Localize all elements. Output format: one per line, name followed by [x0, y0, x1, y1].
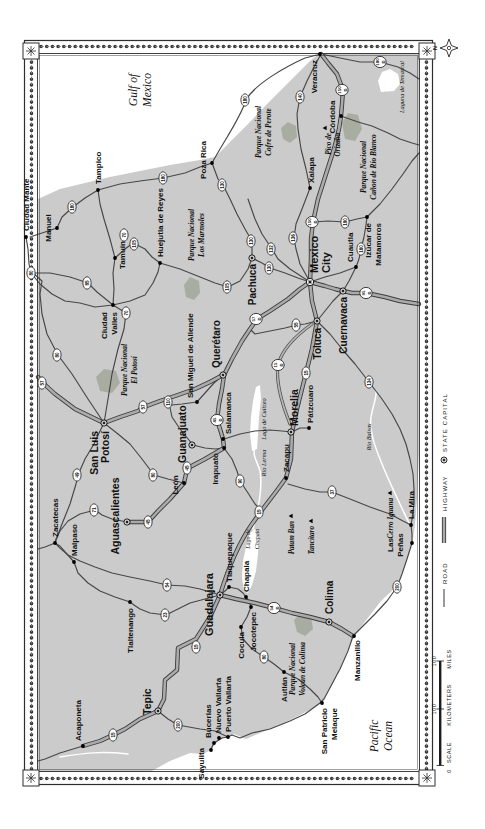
park-label: Cañon de Río Blanco [369, 134, 378, 200]
highway-number: 15 [111, 732, 116, 738]
town-label: Salamanca [224, 392, 233, 434]
state-capital-star-icon [250, 256, 254, 260]
state-capital-star-icon [190, 443, 194, 447]
town-label: Huejutla de Reyes [156, 188, 165, 257]
highway-toll-d: D [367, 291, 372, 294]
town-label: Manuel [44, 214, 53, 242]
highway-number: 132 [269, 245, 274, 253]
town-dot [158, 261, 162, 265]
legend-state-capital-symbol [441, 457, 447, 463]
town-label: Zacatecas [51, 498, 60, 537]
mexico-central-map: N 0 SCALE 100 KILOMETERS 100 MILES RO [0, 0, 485, 829]
highway-toll-d: D [279, 363, 284, 366]
highway-number: 45 [185, 465, 190, 471]
park-label: Parque Nacional [359, 140, 368, 193]
town-label: Xalapa [307, 157, 316, 183]
highway-number: 180 [243, 96, 248, 104]
state-capital-star-icon [125, 520, 129, 524]
town-label: Manzanillo [353, 640, 362, 681]
water-label: Lago de Cuitzeo [260, 398, 267, 440]
town-label: Puerto Vallarta [224, 675, 233, 732]
town-dot [81, 744, 85, 748]
park-label: El Potosí [130, 355, 139, 385]
town-label: Cocula [237, 631, 246, 658]
town-dot [227, 585, 231, 589]
highway-number: 70 [124, 310, 129, 316]
highway-number: 200 [395, 583, 400, 591]
town-dot [365, 215, 369, 219]
park-label: Parque Nacional [187, 208, 196, 261]
highway-number: 80 [29, 270, 34, 276]
town-dot [249, 605, 253, 609]
capital-label: Potosí [99, 430, 111, 463]
town-label: Poza Rica [199, 141, 208, 179]
highway-toll-d: D [313, 220, 318, 223]
town-dot [217, 736, 221, 740]
peak-label: Pico de [325, 132, 333, 155]
highway-number: 15 [257, 509, 262, 515]
town-label: Malpaso [70, 524, 79, 556]
town-label: Jocotepec [249, 611, 258, 651]
highway-number: 23 [163, 612, 168, 618]
highway-number: 55 [294, 322, 299, 328]
highway-number: 80 [151, 472, 156, 478]
town-dot [409, 523, 413, 527]
capital-label: Aguascalientes [109, 477, 121, 554]
capital-label: Morelia [288, 389, 300, 426]
legend-state-capital-label: STATE CAPITAL [442, 393, 448, 452]
town-dot [352, 634, 356, 638]
state-capital-star-icon [102, 421, 106, 425]
town-label: La Mira [407, 490, 416, 519]
highway-number: 130 [220, 181, 225, 189]
town-dot [282, 670, 286, 674]
highway-number: 200 [176, 721, 181, 729]
highway-number: 57 [40, 380, 45, 386]
highway-number: 54 [165, 582, 170, 588]
town-label: Zacapu [282, 444, 291, 472]
town-label: Tampico [94, 152, 103, 184]
capital-label: Guanajuato [176, 405, 188, 463]
highway-number: 15 [304, 370, 309, 376]
town-label: Veracruz [310, 60, 319, 93]
highway-number: 71 [92, 507, 97, 513]
highway-number: 190 [343, 218, 348, 226]
town-label: Cuautla [346, 232, 355, 262]
highway-number: 134 [367, 378, 372, 386]
town-dot [24, 235, 28, 239]
town-dot [128, 600, 132, 604]
town-label: Nuevo Vallarta [214, 677, 223, 733]
map-legend: ROAD HIGHWAY STATE CAPITAL [441, 393, 448, 607]
town-label: Sayulita [197, 747, 206, 778]
park-label: Volcán de Colima [298, 642, 307, 696]
town-dot [212, 741, 216, 745]
highway-number: 160 [359, 245, 364, 253]
capital-label: Mexico [308, 235, 320, 273]
peak-label: Patam Ban [288, 521, 296, 554]
town-dot [113, 256, 117, 260]
state-capital-star-icon [221, 373, 225, 377]
town-label: Acaponeta [74, 700, 83, 741]
town-dot [339, 114, 343, 118]
town-dot [209, 748, 213, 752]
town-dot [53, 541, 57, 545]
water-label: Laguna de Temazcal [398, 61, 405, 114]
state-capital-star-icon [341, 289, 345, 293]
town-dot [55, 226, 59, 230]
capital-label: Cuernavaca [338, 297, 349, 354]
water-label: Chapala [254, 529, 260, 550]
highway-toll-d: D [257, 317, 262, 320]
highway-number: 45 [146, 519, 151, 525]
peak-label: Cerro Iguana [387, 498, 395, 539]
water-label: Ocean [382, 721, 394, 751]
state-capital-star-icon [308, 280, 312, 284]
capital-label: Toluca [312, 328, 323, 360]
town-label: Irapuato [211, 453, 220, 485]
town-dot [239, 625, 243, 629]
town-dot [244, 595, 248, 599]
town-label: Córdoba [328, 100, 337, 133]
highway-number: 130 [267, 264, 272, 272]
town-label: Peñas [396, 533, 405, 557]
compass-rose: N [432, 39, 458, 57]
highway-number: 110 [166, 398, 171, 406]
town-dot [222, 446, 226, 450]
